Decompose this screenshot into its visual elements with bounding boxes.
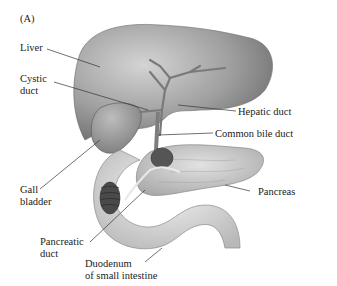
panel-label: (A): [20, 13, 35, 25]
label-gall-bladder-line2: bladder: [20, 196, 52, 208]
label-duodenum-line1: Duodenum: [85, 258, 132, 270]
label-pancreatic-duct-line2: duct: [40, 248, 58, 260]
label-duodenum-line2: of small intestine: [85, 270, 157, 282]
label-cystic-duct-line2: duct: [20, 85, 38, 97]
label-cystic-duct-line1: Cystic: [20, 73, 47, 85]
label-pancreas: Pancreas: [258, 186, 295, 198]
duodenum-opening-upper: [151, 148, 173, 168]
label-liver: Liver: [20, 42, 43, 54]
common-bile-duct-shape: [156, 112, 158, 150]
label-pancreatic-duct-line1: Pancreatic: [40, 236, 84, 248]
label-common-bile-duct: Common bile duct: [215, 128, 293, 140]
gallbladder-shape: [91, 103, 141, 153]
label-hepatic-duct: Hepatic duct: [238, 106, 291, 118]
anatomy-diagram: (A) Liver Cystic duct Hepatic duct Commo…: [0, 0, 337, 286]
label-gall-bladder-line1: Gall: [20, 184, 38, 196]
